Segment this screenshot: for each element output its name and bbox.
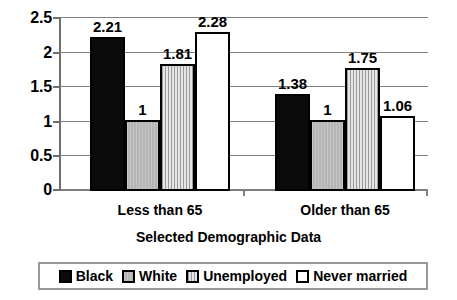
- chart-legend: Black White Unemployed Never married: [38, 262, 428, 290]
- y-tickmark-1.5: [53, 86, 60, 88]
- legend-item-unemployed[interactable]: Unemployed: [186, 269, 287, 283]
- y-tickmark-2.5: [53, 17, 60, 19]
- y-tickmark-0: [53, 189, 60, 191]
- y-tickmark-1: [53, 121, 60, 123]
- legend-item-never-married[interactable]: Never married: [296, 269, 407, 283]
- y-tickmark-2: [53, 52, 60, 54]
- data-label-white-older-than-65: 1: [300, 102, 355, 117]
- data-label-never-married-older-than-65: 1.06: [370, 98, 425, 113]
- y-tick-label-1.5: 1.5: [4, 79, 52, 95]
- y-axis-tick-labels: 2.5 2 1.5 1 0.5 0: [4, 0, 52, 200]
- data-label-black-older-than-65: 1.38: [265, 76, 320, 91]
- y-tick-label-2: 2: [4, 45, 52, 61]
- legend-label-never-married: Never married: [313, 269, 407, 283]
- legend-item-white[interactable]: White: [122, 269, 177, 283]
- legend-swatch-never-married-icon: [296, 270, 309, 283]
- x-axis-title: Selected Demographic Data: [0, 229, 457, 245]
- legend-label-black: Black: [76, 269, 113, 283]
- x-axis-category-older-than-65: Older than 65: [275, 202, 415, 218]
- y-tick-label-1: 1: [4, 114, 52, 130]
- legend-label-white: White: [139, 269, 177, 283]
- data-label-unemployed-older-than-65: 1.75: [335, 50, 390, 65]
- y-tick-label-0: 0: [4, 182, 52, 198]
- legend-item-black[interactable]: Black: [59, 269, 113, 283]
- bar-white-older-than-65: [310, 120, 345, 191]
- y-tick-label-0.5: 0.5: [4, 148, 52, 164]
- x-axis-category-less-than-65: Less than 65: [90, 202, 230, 218]
- data-label-never-married-less-than-65: 2.28: [185, 14, 240, 29]
- data-label-unemployed-less-than-65: 1.81: [150, 46, 205, 61]
- y-tickmark-0.5: [53, 155, 60, 157]
- bar-never-married-older-than-65: [380, 116, 415, 191]
- bar-unemployed-less-than-65: [160, 64, 195, 191]
- legend-swatch-unemployed-icon: [186, 270, 199, 283]
- bar-white-less-than-65: [125, 120, 160, 191]
- y-tick-label-2.5: 2.5: [4, 10, 52, 26]
- plot-area: 2.5 2 1.5 1 0.5 0 2.21 1 1.81 2.28 1.38 …: [0, 0, 457, 200]
- legend-swatch-white-icon: [122, 270, 135, 283]
- legend-label-unemployed: Unemployed: [203, 269, 287, 283]
- legend-swatch-black-icon: [59, 270, 72, 283]
- bar-chart: 2.5 2 1.5 1 0.5 0 2.21 1 1.81 2.28 1.38 …: [0, 0, 457, 300]
- data-label-black-less-than-65: 2.21: [80, 19, 135, 34]
- data-label-white-less-than-65: 1: [115, 102, 170, 117]
- y-axis-spine: [59, 17, 61, 190]
- x-axis-end-tick: [426, 189, 428, 196]
- bar-unemployed-older-than-65: [345, 68, 380, 191]
- category-divider: [243, 189, 245, 196]
